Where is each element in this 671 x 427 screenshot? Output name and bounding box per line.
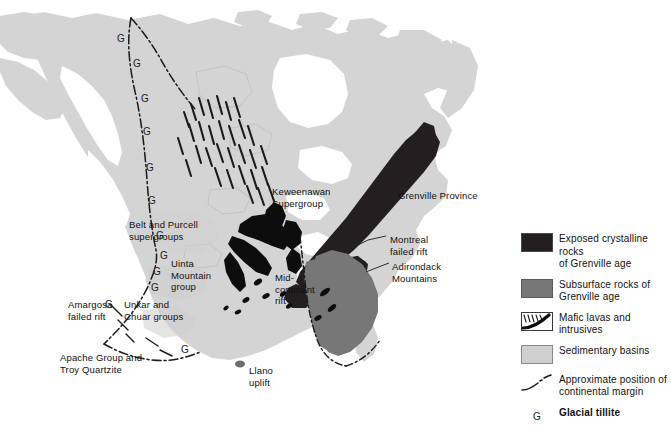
map-label-keweenawan: Keweenawan Supergroup (272, 186, 331, 209)
glacial-tillite-mark: G (151, 283, 159, 293)
legend-label-sedimentary-basins: Sedimentary basins (559, 344, 650, 358)
sedimentary-basins-swatch (521, 345, 553, 364)
mafic-lavas-swatch (521, 312, 553, 331)
legend-item-sedimentary-basins: Sedimentary basins (521, 344, 671, 366)
legend-label-subsurface-rocks: Subsurface rocks of Grenville age (559, 278, 650, 304)
glacial-tillite-mark: G (156, 231, 164, 241)
glacial-tillite-swatch: G (521, 407, 553, 426)
legend-item-glacial-tillite: G Glacial tillite (521, 406, 671, 427)
legend-label-exposed-crystalline: Exposed crystalline rocks of Grenville a… (559, 232, 671, 271)
glacial-tillite-mark: G (133, 59, 141, 69)
dashed-margin-icon (521, 374, 553, 393)
legend-swatch-wrap: G (521, 406, 559, 426)
map-label-grenville-province: Grenville Province (398, 190, 478, 202)
glacial-tillite-mark: G (143, 127, 151, 137)
legend-label-mafic-lavas: Mafic lavas and intrusives (559, 311, 671, 337)
exposed-crystalline-swatch (521, 233, 553, 252)
map-label-llano-uplift: Llano uplift (249, 365, 273, 388)
map-label-adirondack: Adirondack Mountains (392, 261, 441, 284)
legend-item-exposed-crystalline: Exposed crystalline rocks of Grenville a… (521, 232, 671, 271)
legend-swatch-wrap (521, 344, 559, 364)
glacial-tillite-mark: G (160, 251, 168, 261)
glacial-tillite-mark: G (181, 345, 189, 355)
legend-item-subsurface-rocks: Subsurface rocks of Grenville age (521, 278, 671, 304)
continental-margin-swatch (521, 374, 553, 393)
legend-swatch-wrap (521, 373, 559, 393)
mafic-hatch-icon (522, 313, 552, 330)
glacial-tillite-mark: G (117, 34, 125, 44)
glacial-tillite-mark: G (153, 267, 161, 277)
map-label-uinta-mountain: Uinta Mountain group (171, 258, 211, 293)
legend-swatch-wrap (521, 232, 559, 252)
map-label-montreal-failed-rift: Montreal failed rift (390, 234, 428, 257)
legend-item-continental-margin: Approximate position of continental marg… (521, 373, 671, 399)
glacial-tillite-mark: G (148, 196, 156, 206)
subsurface-rocks-swatch (521, 279, 553, 298)
glacial-tillite-mark: G (146, 163, 154, 173)
legend-label-continental-margin: Approximate position of continental marg… (559, 373, 667, 399)
map-label-apache-troy: Apache Group and Troy Quartzite (60, 352, 142, 375)
map-legend: Exposed crystalline rocks of Grenville a… (521, 232, 671, 427)
legend-swatch-wrap (521, 278, 559, 298)
legend-item-mafic-lavas: Mafic lavas and intrusives (521, 311, 671, 337)
map-label-unkar-chuar: Unkar and Chuar groups (124, 299, 183, 322)
geologic-map-figure: Keweenawan Supergroup Grenville Province… (0, 0, 671, 427)
legend-label-glacial-tillite: Glacial tillite (559, 406, 620, 420)
glacial-tillite-mark: G (105, 300, 113, 310)
map-label-mid-continent-rift: Mid- continent rift (275, 272, 315, 307)
legend-swatch-wrap (521, 311, 559, 331)
glacial-tillite-mark: G (141, 94, 149, 104)
